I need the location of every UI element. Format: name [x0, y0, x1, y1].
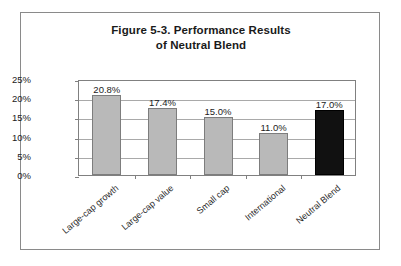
y-axis-tick — [75, 100, 79, 101]
bar-value-label: 15.0% — [188, 106, 248, 117]
bar-value-label: 11.0% — [244, 122, 304, 133]
chart-title-line-2: of Neutral Blend — [21, 38, 381, 53]
y-axis-label: 0% — [0, 171, 31, 181]
y-axis-label: 25% — [0, 75, 31, 85]
y-axis-tick — [75, 119, 79, 120]
figure-frame: Figure 5-3. Performance Results of Neutr… — [20, 12, 380, 250]
chart-title: Figure 5-3. Performance Results of Neutr… — [21, 23, 381, 53]
y-axis-tick — [75, 158, 79, 159]
bar-value-label: 17.0% — [299, 99, 359, 110]
bar — [92, 95, 121, 175]
x-axis-tick — [135, 175, 136, 179]
bar-value-label: 17.4% — [132, 97, 192, 108]
bar-value-label: 20.8% — [77, 84, 137, 95]
bar — [148, 108, 177, 175]
x-axis-tick — [190, 175, 191, 179]
y-axis-label: 10% — [0, 133, 31, 143]
y-axis-label: 20% — [0, 94, 31, 104]
bar — [204, 117, 233, 175]
y-axis-tick — [75, 81, 79, 82]
chart-title-line-1: Figure 5-3. Performance Results — [21, 23, 381, 38]
y-axis-label: 15% — [0, 113, 31, 123]
plot-area: 20.8%17.4%15.0%11.0%17.0% — [78, 80, 356, 176]
y-axis-tick — [75, 139, 79, 140]
bar — [259, 133, 288, 175]
y-axis-tick — [75, 177, 79, 178]
y-axis-label: 5% — [0, 152, 31, 162]
bar — [315, 110, 344, 175]
x-axis-tick — [301, 175, 302, 179]
x-axis-tick — [246, 175, 247, 179]
